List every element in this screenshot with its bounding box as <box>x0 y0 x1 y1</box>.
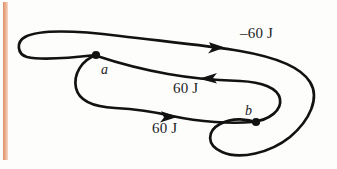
point-label-a: a <box>101 62 108 78</box>
point-a-dot <box>92 51 100 59</box>
energy-label-bottom-segment: 60 J <box>152 120 177 137</box>
path-diagram <box>0 0 337 169</box>
energy-label-top-segment: –60 J <box>240 25 273 42</box>
point-label-b: b <box>245 103 252 119</box>
energy-label-middle-segment: 60 J <box>173 80 198 97</box>
point-b-dot <box>252 118 260 126</box>
figure-canvas: –60 J 60 J 60 J a b <box>0 0 337 169</box>
